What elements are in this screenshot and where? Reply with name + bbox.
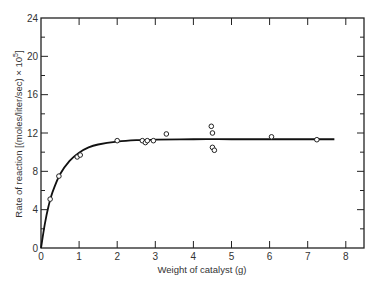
data-point (145, 138, 150, 143)
data-point (315, 137, 320, 142)
data-point (212, 148, 217, 153)
data-point (48, 197, 53, 202)
data-point (210, 131, 215, 136)
y-tick-label: 12 (27, 128, 39, 139)
data-point (269, 135, 274, 140)
data-point (57, 174, 62, 179)
y-axis-title: Rate of reaction [(moles/liter/sec) × 10… (12, 50, 24, 217)
y-axis-title-main: Rate of reaction [(moles/liter/sec) × 10 (13, 57, 24, 218)
plot-border (41, 18, 364, 248)
plot-frame (41, 18, 364, 248)
y-tick-label: 0 (32, 243, 38, 254)
fitted-curve (41, 139, 334, 248)
data-point (78, 153, 83, 158)
x-tick-labels: 012345678 (38, 251, 349, 262)
data-point (115, 138, 120, 143)
x-tick-label: 1 (76, 251, 82, 262)
x-tick-label: 5 (229, 251, 235, 262)
x-tick-label: 7 (305, 251, 311, 262)
y-tick-label: 4 (32, 204, 38, 215)
y-tick-label: 8 (32, 166, 38, 177)
data-point (151, 138, 156, 143)
y-tick-label: 20 (27, 51, 39, 62)
x-tick-label: 8 (343, 251, 349, 262)
x-tick-label: 2 (114, 251, 120, 262)
y-tick-label: 16 (27, 89, 39, 100)
data-point (164, 132, 169, 137)
x-tick-label: 0 (38, 251, 44, 262)
y-tick-label: 24 (27, 13, 39, 24)
x-tick-label: 3 (153, 251, 159, 262)
y-tick-labels: 04812162024 (27, 13, 39, 254)
axis-ticks (41, 18, 364, 248)
x-axis-title: Weight of catalyst (g) (157, 264, 246, 275)
data-points (48, 124, 319, 201)
y-axis-title-close: ] (13, 50, 24, 53)
x-tick-label: 6 (267, 251, 273, 262)
chart: 012345678 04812162024 Weight of catalyst… (0, 0, 376, 286)
x-tick-label: 4 (191, 251, 197, 262)
data-point (209, 124, 214, 129)
